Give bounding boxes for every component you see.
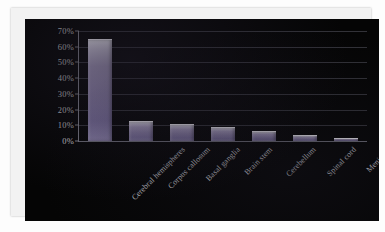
y-axis-tick-label: 40%	[58, 73, 74, 83]
bar-slot	[244, 31, 285, 141]
y-axis-tick-label: 30%	[58, 89, 74, 99]
bar-slot	[79, 31, 120, 141]
bar[interactable]	[252, 131, 276, 141]
y-axis-tick-label: 0%	[62, 136, 74, 146]
bar-slot	[326, 31, 367, 141]
y-axis-tick-label: 50%	[58, 57, 74, 67]
x-axis-labels-group: Cerebral hemispheresCorpus callosumBasal…	[79, 145, 367, 221]
bar[interactable]	[88, 39, 112, 141]
x-axis-baseline: 0%	[79, 141, 367, 142]
chart-frame: 0%10%20%30%40%50%60%70% Cerebral hemisph…	[11, 8, 371, 216]
x-axis-category-label: Meninges	[365, 145, 379, 174]
y-axis-tick-label: 70%	[58, 26, 74, 36]
y-axis-tick-label: 10%	[58, 120, 74, 130]
x-axis-category-label: Brain stem	[243, 145, 275, 177]
x-axis-category-label: Cerebellum	[284, 145, 317, 178]
plot-area: 0%10%20%30%40%50%60%70%	[79, 31, 367, 141]
bar-slot	[202, 31, 243, 141]
chart-canvas: 0%10%20%30%40%50%60%70% Cerebral hemisph…	[25, 19, 379, 221]
y-axis-tick-label: 60%	[58, 42, 74, 52]
x-axis-category-label: Spinal cord	[325, 145, 358, 178]
bar[interactable]	[293, 135, 317, 141]
chart-page: 0%10%20%30%40%50%60%70% Cerebral hemisph…	[0, 0, 385, 232]
bar[interactable]	[129, 121, 153, 141]
bar-slot	[161, 31, 202, 141]
bar-slot	[120, 31, 161, 141]
bar[interactable]	[170, 124, 194, 141]
bar[interactable]	[211, 127, 235, 141]
bar[interactable]	[334, 138, 358, 141]
bar-slot	[285, 31, 326, 141]
y-axis-tick-label: 20%	[58, 104, 74, 114]
bars-group	[79, 31, 367, 141]
